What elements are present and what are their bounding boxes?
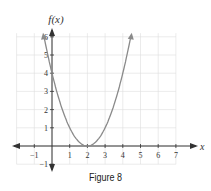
x-axis-right-arrow-icon [190, 143, 198, 149]
y-axis-up-arrow-icon [49, 28, 55, 36]
curve-right-arrow-icon [128, 33, 134, 40]
x-axis-left-arrow-icon [12, 143, 20, 149]
x-tick-label: 3 [103, 151, 107, 160]
y-tick-label: 1 [44, 124, 48, 133]
x-tick-label: 6 [156, 151, 160, 160]
x-tick-label: 1 [68, 151, 72, 160]
y-axis-label: f(x) [48, 13, 64, 26]
x-tick-label: −1 [30, 151, 39, 160]
y-axis-down-arrow-icon [49, 164, 55, 172]
y-tick-label: −1 [39, 160, 48, 169]
y-tick-label: 2 [44, 106, 48, 115]
y-tick-label: 3 [44, 87, 48, 96]
chart: −11234567−1123456xf(x) [0, 0, 211, 191]
figure-caption: Figure 8 [11, 172, 201, 183]
x-axis-label: x [199, 141, 205, 152]
x-tick-label: 7 [174, 151, 178, 160]
y-tick-label: 4 [44, 69, 48, 78]
x-tick-label: 4 [121, 151, 125, 160]
x-tick-label: 5 [139, 151, 143, 160]
x-tick-label: 2 [85, 151, 89, 160]
